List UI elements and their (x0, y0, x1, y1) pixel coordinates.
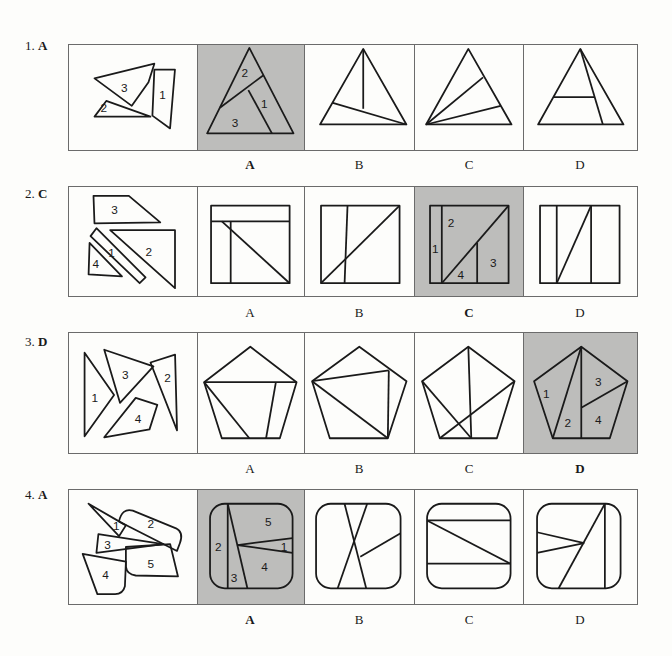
pieces-figure: 3 2 1 (69, 45, 197, 150)
question-3-option-c[interactable] (414, 333, 524, 453)
pieces-figure: 1 2 3 4 5 (69, 490, 197, 604)
question-4-option-d[interactable] (523, 490, 637, 604)
option-label-d: D (526, 612, 634, 628)
rounded-square-option-d (524, 490, 637, 604)
question-number: 3. (25, 334, 35, 349)
piece-label: 1 (91, 391, 98, 405)
piece-label: 1 (261, 97, 268, 110)
option-label-d: D (526, 305, 634, 321)
piece-label: 4 (457, 268, 464, 281)
rounded-square-option-a: 5 2 1 4 3 (198, 490, 305, 604)
question-3-pieces: 1 3 2 4 (69, 333, 197, 453)
option-label-b: B (305, 461, 413, 477)
pentagon-option-c (415, 333, 524, 453)
option-label-b: B (305, 305, 413, 321)
question-4-pieces: 1 2 3 4 5 (69, 490, 197, 604)
option-label-d: D (526, 461, 634, 477)
question-2-label: 2. C (25, 186, 47, 202)
question-1-label: 1. A (25, 38, 47, 54)
question-1-option-c[interactable] (414, 45, 524, 150)
piece-label: 4 (595, 413, 602, 427)
option-label-b: B (305, 157, 413, 173)
rounded-square-option-c (415, 490, 524, 604)
piece-label: 2 (447, 216, 454, 229)
option-label-d: D (526, 157, 634, 173)
pieces-figure: 3 1 2 4 (69, 187, 197, 296)
piece-label: 2 (214, 540, 221, 553)
piece-label: 2 (241, 66, 248, 79)
rounded-square-option-b (305, 490, 414, 604)
piece-label: 1 (108, 246, 115, 259)
square-option-c: 2 1 3 4 (415, 187, 524, 296)
piece-label: 4 (102, 568, 109, 581)
question-1-pieces: 3 2 1 (69, 45, 197, 150)
pentagon-option-b (305, 333, 414, 453)
piece-label: 3 (490, 256, 497, 269)
question-2-pieces: 3 1 2 4 (69, 187, 197, 296)
question-1-option-d[interactable] (523, 45, 637, 150)
option-label-c: C (415, 612, 523, 628)
question-4-option-c[interactable] (414, 490, 524, 604)
question-4-option-a[interactable]: 5 2 1 4 3 (197, 490, 305, 604)
pentagon-option-a (198, 333, 305, 453)
question-3-option-d[interactable]: 1 3 2 4 (523, 333, 637, 453)
question-2-option-a[interactable] (197, 187, 305, 296)
question-number: 1. (25, 38, 35, 53)
question-2-option-b[interactable] (304, 187, 414, 296)
piece-label: 3 (230, 571, 237, 584)
piece-label: 1 (113, 519, 120, 532)
piece-label: 3 (595, 375, 602, 389)
question-1-row: 3 2 1 2 1 3 (68, 44, 638, 151)
piece-label: 2 (100, 101, 107, 114)
triangle-option-c (415, 45, 524, 150)
piece-label: 1 (280, 540, 287, 553)
piece-label: 2 (148, 517, 155, 530)
question-3-option-a[interactable] (197, 333, 305, 453)
piece-label: 3 (111, 203, 118, 216)
piece-label: 5 (148, 557, 155, 570)
question-answer: C (38, 186, 47, 201)
question-answer: D (38, 334, 47, 349)
question-1-option-a[interactable]: 2 1 3 (197, 45, 305, 150)
question-2-row: 3 1 2 4 2 1 3 4 (68, 186, 638, 297)
piece-label: 1 (432, 242, 439, 255)
option-label-a: A (196, 157, 304, 173)
question-answer: A (38, 38, 47, 53)
option-label-a: A (196, 305, 304, 321)
question-4-option-b[interactable] (304, 490, 414, 604)
question-1-option-b[interactable] (304, 45, 414, 150)
square-option-a (198, 187, 305, 296)
square-option-d (524, 187, 637, 296)
question-number: 4. (25, 487, 35, 502)
pieces-figure: 1 3 2 4 (69, 333, 197, 453)
question-answer: A (38, 487, 47, 502)
piece-label: 5 (265, 515, 272, 528)
piece-label: 2 (164, 371, 171, 385)
piece-label: 3 (122, 368, 129, 382)
question-4-label: 4. A (25, 487, 47, 503)
question-3-label: 3. D (25, 334, 47, 350)
piece-label: 3 (121, 81, 128, 94)
pentagon-option-d: 1 3 2 4 (524, 333, 637, 453)
option-label-c: C (415, 461, 523, 477)
piece-label: 1 (543, 387, 550, 401)
piece-label: 4 (135, 412, 142, 426)
question-2-option-d[interactable] (523, 187, 637, 296)
triangle-option-d (524, 45, 637, 150)
question-2-option-c[interactable]: 2 1 3 4 (414, 187, 524, 296)
option-label-b: B (305, 612, 413, 628)
piece-label: 1 (159, 88, 166, 101)
question-3-option-b[interactable] (304, 333, 414, 453)
piece-label: 3 (231, 116, 238, 129)
option-label-a: A (196, 461, 304, 477)
question-number: 2. (25, 186, 35, 201)
question-4-row: 1 2 3 4 5 5 2 1 4 3 (68, 489, 638, 605)
triangle-option-a: 2 1 3 (198, 45, 305, 150)
question-3-row: 1 3 2 4 (68, 332, 638, 454)
triangle-option-b (305, 45, 414, 150)
piece-label: 4 (93, 258, 100, 271)
option-label-a: A (196, 612, 304, 628)
option-label-c: C (415, 305, 523, 321)
piece-label: 2 (565, 416, 572, 430)
piece-label: 3 (104, 538, 111, 551)
